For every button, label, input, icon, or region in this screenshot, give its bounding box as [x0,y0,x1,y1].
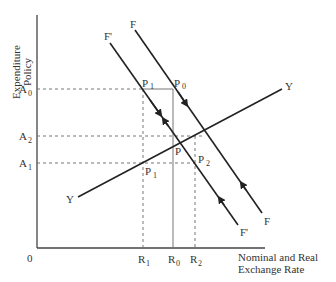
svg-text:0: 0 [182,82,186,91]
x-tick-R0: R 0 [168,253,180,268]
x-axis-label-line1: Nominal and Real [238,251,318,263]
label-P0: P 0 [174,77,186,91]
svg-text:2: 2 [206,159,210,168]
svg-text:R: R [138,253,146,265]
label-F-prime-bottom: F' [240,226,248,238]
svg-text:A: A [19,157,27,169]
y-axis-label-line2: Policy [21,57,33,86]
svg-text:0: 0 [28,89,32,98]
y-tick-A2: A 2 [19,130,32,145]
svg-text:R: R [190,253,198,265]
svg-text:P: P [174,77,180,89]
label-P1-bottom: P 1 [145,165,157,180]
svg-text:1: 1 [28,163,32,172]
svg-text:1: 1 [150,82,154,91]
arrow-down-icon [150,100,160,114]
x-tick-R1: R 1 [138,253,150,268]
label-Y-right: Y [285,80,293,92]
label-F-top: F [130,18,136,30]
svg-text:P: P [175,145,181,157]
arrow-down-icon [178,92,186,104]
svg-text:1: 1 [153,171,157,180]
origin-label: 0 [27,252,33,264]
curve-F-prime [110,43,238,225]
svg-text:0: 0 [176,259,180,268]
label-F-bottom: F [264,215,270,227]
svg-text:P: P [142,77,148,89]
svg-text:2: 2 [198,259,202,268]
svg-text:A: A [19,83,27,95]
arrow-up-icon [242,184,246,190]
svg-text:P: P [145,165,151,177]
x-tick-R2: R 2 [190,253,202,268]
arrow-up-icon [164,120,168,126]
label-P: P [175,145,181,157]
svg-text:A: A [19,130,27,142]
x-axis-label-line2: Exchange Rate [238,263,304,275]
label-P2: P 2 [198,153,210,168]
y-tick-A1: A 1 [19,157,32,172]
curve-Y [78,89,282,197]
label-P1-top: P 1 [142,77,154,91]
policy-diagram: Expenditure Policy 0 Nominal and Real Ex… [0,0,336,282]
label-F-prime-top: F' [104,30,112,42]
arrow-up-icon [220,199,224,205]
svg-text:P: P [198,153,204,165]
svg-text:R: R [168,253,176,265]
svg-text:1: 1 [146,259,150,268]
svg-text:2: 2 [28,136,32,145]
label-Y-left: Y [66,193,74,205]
